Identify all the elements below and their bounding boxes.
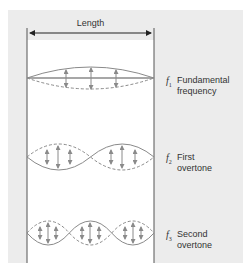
mode-line2: overtone: [177, 240, 212, 251]
mode-line2: frequency: [177, 86, 230, 97]
second-overtone-wave: [27, 221, 154, 245]
mode-line2: overtone: [177, 163, 212, 174]
mode-label-f1: f1 Fundamental frequency: [166, 75, 230, 97]
fundamental-wave: [27, 67, 154, 89]
mode-line1: Second: [177, 229, 212, 240]
mode-label-f3: f3 Second overtone: [166, 229, 212, 251]
mode-line1: Fundamental: [177, 75, 230, 86]
mode-symbol: f1: [166, 75, 172, 91]
mode-symbol: f3: [166, 229, 172, 245]
mode-symbol: f2: [166, 152, 172, 168]
standing-wave-diagram: [0, 0, 252, 271]
first-overtone-wave: [27, 144, 154, 170]
mode-line1: First: [177, 152, 212, 163]
mode-label-f2: f2 First overtone: [166, 152, 212, 174]
length-label: Length: [27, 18, 154, 28]
